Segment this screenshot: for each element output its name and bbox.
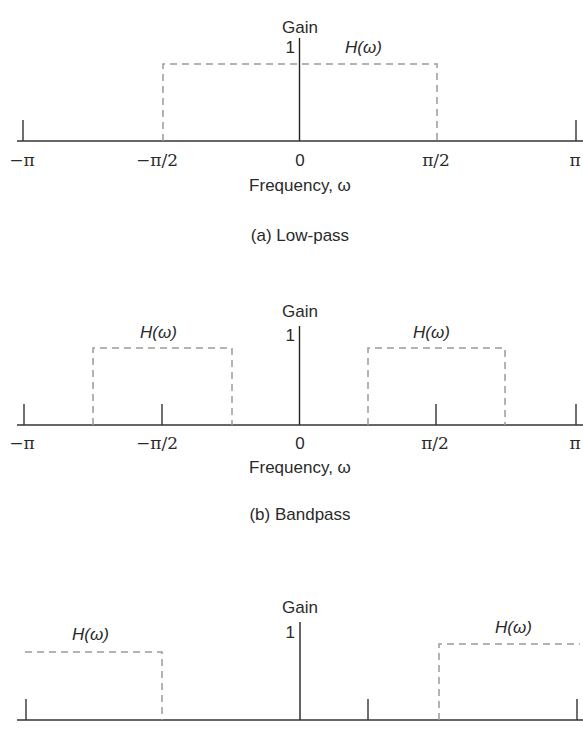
response-label-right: H(ω) (495, 618, 532, 637)
tick-label-half-pi: π/2 (421, 433, 449, 453)
response-label: H(ω) (345, 38, 382, 57)
response-label-left: H(ω) (72, 625, 109, 644)
frequency-axis-label: Frequency, ω (249, 176, 351, 195)
tick-label-zero: 0 (295, 434, 304, 453)
gain-axis-label: Gain (282, 302, 318, 321)
tick-label-neg-half-pi: −π/2 (136, 150, 178, 170)
tick-label-pi: π (569, 433, 580, 453)
tick-label-zero: 0 (295, 151, 304, 170)
gain-tick-label: 1 (286, 38, 295, 57)
tick-label-neg-pi: −π (9, 150, 34, 170)
panel-highpass-cropped: Gain 1 H(ω) H(ω) (17, 598, 583, 720)
panel-caption: (a) Low-pass (251, 226, 349, 245)
highpass-response-positive (439, 644, 580, 720)
panel-bandpass: Gain 1 H(ω) H(ω) −π −π/2 0 π/2 π Frequen… (9, 302, 583, 524)
response-label-left: H(ω) (140, 323, 177, 342)
tick-label-pi: π (569, 150, 580, 170)
panel-low-pass: Gain 1 H(ω) −π −π/2 0 π/2 π Frequency, ω… (9, 18, 583, 245)
gain-axis-label: Gain (282, 18, 318, 37)
highpass-response-negative (25, 652, 162, 720)
gain-axis-label: Gain (282, 598, 318, 617)
frequency-axis-label: Frequency, ω (249, 458, 351, 477)
response-label-right: H(ω) (413, 323, 450, 342)
tick-label-half-pi: π/2 (422, 150, 450, 170)
gain-tick-label: 1 (286, 623, 295, 642)
gain-tick-label: 1 (286, 326, 295, 345)
tick-label-neg-half-pi: −π/2 (136, 433, 178, 453)
panel-caption: (b) Bandpass (249, 505, 350, 524)
filter-response-figure: Gain 1 H(ω) −π −π/2 0 π/2 π Frequency, ω… (0, 0, 583, 730)
tick-label-neg-pi: −π (9, 433, 34, 453)
